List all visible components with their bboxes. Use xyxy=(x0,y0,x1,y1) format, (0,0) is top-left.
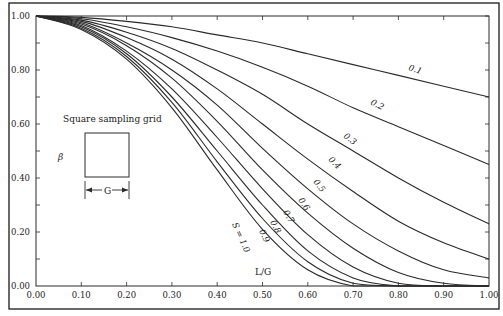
y-tick-label: 1.00 xyxy=(11,11,30,21)
y-tick-label: 0.40 xyxy=(11,173,30,183)
y-axis-title: β xyxy=(57,152,63,162)
arrow-right-icon xyxy=(122,188,128,193)
x-tick-label: 0.40 xyxy=(208,290,227,300)
curve-label: S = 1.0 xyxy=(230,221,252,255)
curve-label: 0.4 xyxy=(327,154,344,171)
curve-s-10 xyxy=(36,16,489,286)
inset-square-grid: Square sampling grid G xyxy=(63,114,162,199)
curve-label: 0.3 xyxy=(342,131,359,147)
inset-dimension-label: G xyxy=(104,186,111,196)
x-tick-label: 0.20 xyxy=(117,290,136,300)
x-tick-label: 0.70 xyxy=(344,290,363,300)
y-tick-label: 0.60 xyxy=(11,119,30,129)
curve-label: 0.6 xyxy=(296,196,312,213)
curve-label: 0.2 xyxy=(369,97,386,112)
curve-label: 0.8 xyxy=(268,218,283,235)
x-tick-label: 0.00 xyxy=(27,290,46,300)
x-tick-label: 0.10 xyxy=(72,290,91,300)
arrow-left-icon xyxy=(86,188,92,193)
x-tick-label: 0.50 xyxy=(253,290,272,300)
curve-label: 0.5 xyxy=(311,177,327,194)
y-tick-label: 0.80 xyxy=(11,65,30,75)
x-tick-label: 0.30 xyxy=(162,290,181,300)
y-tick-label: 0.00 xyxy=(11,281,30,291)
x-axis-title: L/G xyxy=(255,267,271,277)
curve-label: 0.9 xyxy=(257,227,272,244)
curve-s-4 xyxy=(36,16,489,259)
inset-square xyxy=(85,133,129,177)
x-tick-label: 0.60 xyxy=(298,290,317,300)
curve-s-6 xyxy=(36,16,489,286)
y-tick-label: 0.20 xyxy=(11,227,30,237)
x-tick-label: 0.90 xyxy=(434,290,453,300)
x-tick-label: 1.00 xyxy=(480,290,499,300)
inset-caption: Square sampling grid xyxy=(63,114,162,124)
curve-s-8 xyxy=(36,16,489,286)
x-tick-label: 0.80 xyxy=(389,290,408,300)
curve-s-7 xyxy=(36,16,489,286)
curve-label: 0.1 xyxy=(407,62,423,76)
x-axis: 0.000.100.200.300.400.500.600.700.800.90… xyxy=(27,16,499,300)
curves xyxy=(36,16,489,286)
plot-frame xyxy=(36,16,489,286)
curve-s-9 xyxy=(36,16,489,286)
chart: 0.000.100.200.300.400.500.600.700.800.90… xyxy=(0,0,503,316)
